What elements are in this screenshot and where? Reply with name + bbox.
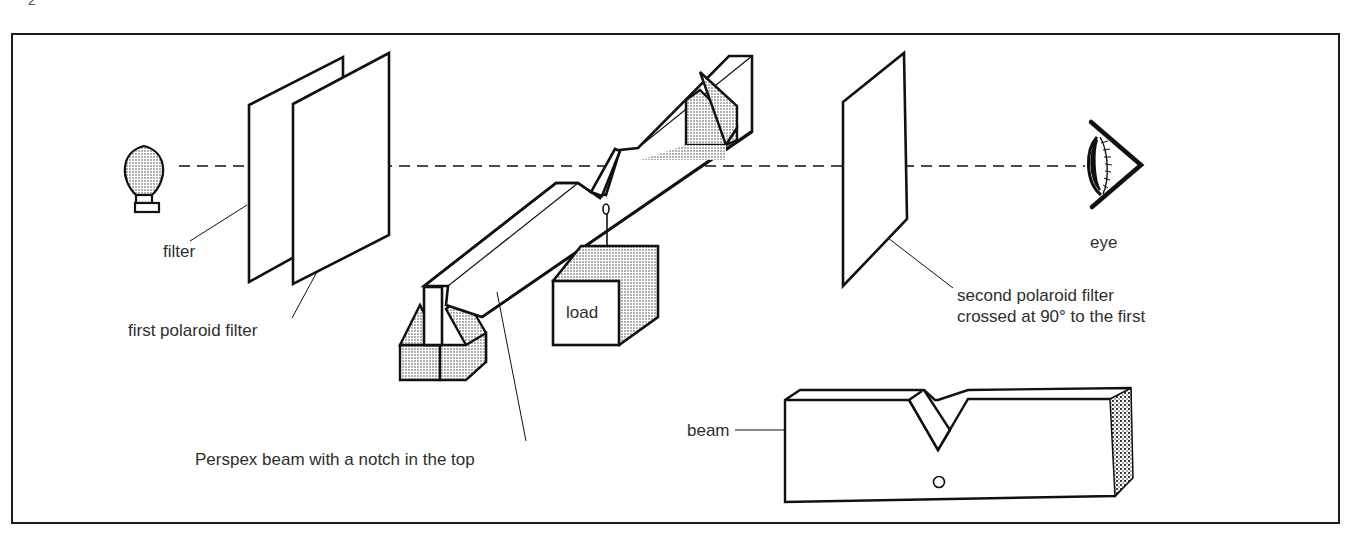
second-polaroid-label-line1: second polaroid filter [957, 285, 1114, 306]
eye-label: eye [1090, 232, 1117, 253]
first-polaroid-label: first polaroid filter [128, 320, 257, 341]
eye-icon [1088, 122, 1141, 207]
load-box [553, 246, 658, 345]
load-label: load [566, 302, 598, 323]
second-polaroid-filter-plate [843, 53, 907, 286]
beam-label: beam [687, 420, 730, 441]
filter-label: filter [163, 241, 195, 262]
second-polaroid-label-line2: crossed at 90° to the first [957, 306, 1145, 327]
light-bulb-icon [125, 146, 163, 212]
beam-detail [785, 388, 1133, 502]
perspex-beam-label: Perspex beam with a notch in the top [195, 449, 475, 470]
